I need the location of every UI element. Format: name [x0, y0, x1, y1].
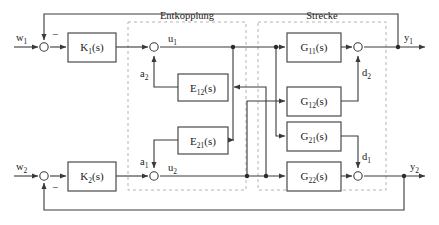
summer-y1: [354, 43, 362, 51]
summer-y2: [354, 172, 362, 180]
junction-u2-g12: [245, 174, 249, 178]
signal-label-y1: y1: [404, 32, 413, 46]
junction-u2-e12: [264, 174, 268, 178]
group-label-strecke: Strecke: [306, 10, 338, 21]
wire-e12-to-sumu1: [154, 56, 178, 87]
wire-g12-to-sumy1: [341, 56, 358, 101]
signal-label-y2: y2: [410, 161, 419, 175]
signal-label-d2: d2: [362, 67, 371, 81]
summer-w1: [40, 43, 48, 51]
signal-label-a1: a1: [140, 156, 149, 170]
wire-e21-to-sumu2: [154, 140, 178, 168]
junction-u1-e21: [231, 45, 235, 49]
junction-y1: [396, 45, 400, 49]
sign-minus-w2: −: [52, 181, 58, 193]
sign-minus-w1: −: [52, 28, 58, 40]
wire-g21-to-sumy2: [341, 136, 358, 168]
signal-label-w1: w1: [16, 32, 28, 46]
block-diagram-canvas: Entkopplung Strecke: [0, 0, 439, 225]
junction-y2: [402, 174, 406, 178]
summer-u1: [150, 43, 158, 51]
signal-label-d1: d1: [362, 151, 371, 165]
group-label-entkopplung: Entkopplung: [160, 10, 215, 21]
wire-u1-to-g21: [276, 47, 285, 136]
control-block-diagram: Entkopplung Strecke: [0, 0, 439, 225]
signal-label-u1: u1: [168, 33, 177, 47]
wire-u2-to-e12: [234, 87, 266, 176]
signal-label-w2: w2: [16, 161, 28, 175]
summer-w2: [40, 172, 48, 180]
junction-u1-g21: [274, 45, 278, 49]
summer-u2: [150, 172, 158, 180]
wire-u1-to-e21: [233, 47, 234, 140]
signal-label-a2: a2: [140, 68, 149, 82]
signal-label-u2: u2: [168, 162, 177, 176]
